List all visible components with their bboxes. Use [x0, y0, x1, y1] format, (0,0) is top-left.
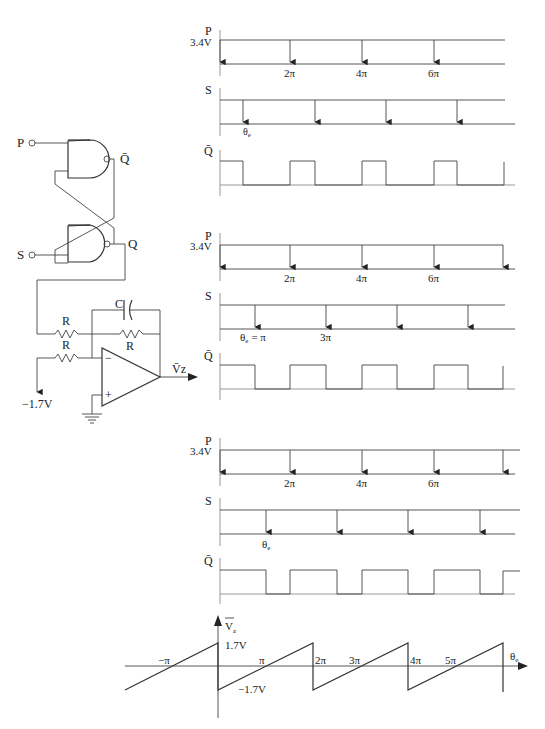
tick-2pi: 2π: [284, 67, 296, 79]
theta-e-label: θe: [243, 126, 251, 139]
noninverting-input-sign: +: [105, 388, 112, 402]
output-vz-label: V̄z: [172, 362, 186, 376]
p-level-label: 3.4V: [190, 240, 212, 252]
diagram-canvas: P Q̄ Q S R: [0, 0, 545, 729]
tick-2pi: 2π: [284, 272, 296, 284]
sawtooth-waveform: [125, 643, 503, 692]
tick-2pi: 2π: [284, 477, 296, 489]
input-p-label: P: [17, 135, 24, 150]
resistor-1: [55, 330, 78, 338]
tick-4pi: 4π: [356, 272, 368, 284]
x-tick-pi: π: [259, 654, 265, 666]
theta-e-label: θe: [262, 538, 270, 552]
resistor-2: [55, 354, 78, 362]
tick-3pi: 3π: [320, 331, 332, 343]
x-axis-label: θe: [510, 650, 518, 664]
s-label: S: [205, 494, 212, 508]
y-axis-label: Vz: [225, 620, 236, 635]
tick-4pi: 4π: [356, 477, 368, 489]
input-s-terminal: [29, 252, 35, 258]
qbar-waveform: [220, 161, 504, 185]
tick-6pi: 6π: [428, 272, 440, 284]
x-tick-5pi: 5π: [445, 654, 457, 666]
p-level-label: 3.4V: [190, 36, 212, 48]
input-p-terminal: [29, 140, 35, 146]
qbar-label: Q̄: [204, 144, 213, 158]
output-q-label: Q: [128, 236, 138, 251]
qbar-label: Q̄: [204, 554, 213, 568]
tick-4pi: 4π: [356, 67, 368, 79]
y-axis-arrow-icon: [214, 615, 222, 626]
resistor-label-1: R: [62, 314, 70, 328]
x-axis-arrow-icon: [518, 662, 528, 670]
x-tick-2pi: 2π: [315, 654, 327, 666]
output-arrow-icon: [188, 373, 198, 381]
y-tick-pos: 1.7V: [225, 639, 247, 651]
nand-gate-bottom: [68, 225, 105, 262]
x-tick-neg-pi: −π: [158, 654, 170, 666]
qbar-waveform: [220, 365, 503, 389]
inverting-input-sign: −: [105, 351, 112, 365]
resistor-label-feedback: R: [126, 339, 134, 353]
timing-panel-3: P 3.4V 2π 4π 6π S θe Q̄: [190, 434, 520, 604]
p-level-label: 3.4V: [190, 445, 212, 457]
input-s-label: S: [17, 247, 24, 262]
y-tick-neg: −1.7V: [238, 683, 266, 695]
qbar-waveform: [220, 570, 520, 594]
timing-panel-2: P 3.4V 2π 4π 6π S θe= π 3π Q̄: [190, 229, 515, 400]
theta-e-equals-pi-label: θe= π: [240, 331, 266, 345]
tick-6pi: 6π: [428, 477, 440, 489]
timing-panel-1: P 3.4V 2π 4π 6π S θe Q̄: [190, 24, 515, 196]
tick-6pi: 6π: [428, 67, 440, 79]
s-label: S: [205, 289, 212, 303]
output-qbar-label: Q̄: [120, 151, 130, 166]
resistor-label-2: R: [62, 338, 70, 352]
s-label: S: [205, 83, 212, 97]
capacitor-label: C: [115, 297, 123, 311]
integrator-circuit: R R C R −1.7V − +: [22, 297, 198, 423]
sawtooth-chart: Vz 1.7V −1.7V −π π 2π 3π 4π 5π θe: [125, 615, 528, 718]
ground-icon: [82, 414, 102, 423]
qbar-label: Q̄: [204, 349, 213, 363]
nand-gate-top: [68, 140, 109, 178]
resistor-feedback: [120, 330, 143, 338]
reference-voltage-label: −1.7V: [22, 397, 53, 411]
x-tick-3pi: 3π: [349, 654, 361, 666]
x-tick-4pi: 4π: [410, 654, 422, 666]
